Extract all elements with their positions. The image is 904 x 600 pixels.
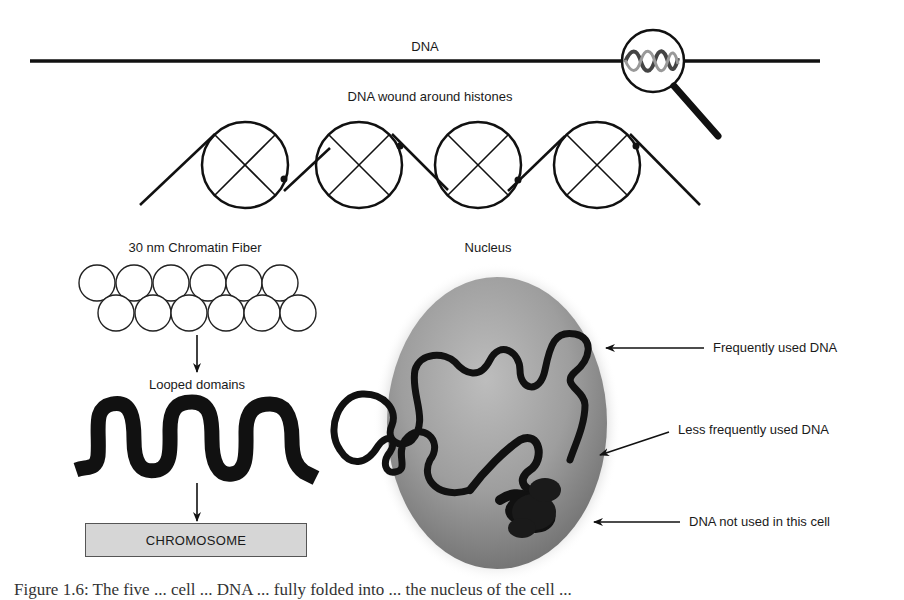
chromosome-box: CHROMOSOME [85, 523, 307, 557]
chromatin-fiber [79, 265, 316, 331]
histone [554, 122, 640, 208]
dna-wound-label: DNA wound around histones [348, 89, 513, 104]
not-used-label: DNA not used in this cell [689, 514, 830, 529]
nucleus-label: Nucleus [465, 240, 512, 255]
dna-label: DNA [411, 39, 438, 54]
magnifier-icon [622, 30, 718, 136]
chromatin-fiber-label: 30 nm Chromatin Fiber [129, 240, 262, 255]
histone [202, 122, 288, 208]
looped-domains [76, 402, 316, 478]
dna-wound-histones [140, 122, 700, 208]
histone [316, 122, 402, 208]
figure-caption: Figure 1.6: The five ... cell ... DNA ..… [14, 580, 572, 600]
frequently-used-label: Frequently used DNA [713, 340, 837, 355]
histone [435, 122, 521, 208]
chromosome-label: CHROMOSOME [146, 533, 247, 548]
looped-domains-label: Looped domains [149, 377, 245, 392]
nucleus [334, 263, 621, 583]
less-frequently-used-label: Less frequently used DNA [678, 422, 829, 437]
